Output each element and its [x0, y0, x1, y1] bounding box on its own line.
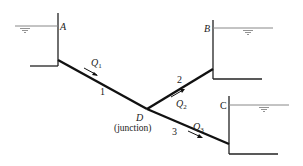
pipe-1 — [58, 60, 147, 109]
junction-caption: (junction) — [114, 123, 151, 134]
pipe-1-label: 1 — [100, 86, 105, 97]
flow-label-q2: Q2 — [176, 98, 187, 111]
reservoir-diagram: A B C — [0, 0, 303, 166]
reservoir-b-label: B — [204, 23, 210, 34]
reservoir-b: B — [204, 20, 273, 79]
pipe-2-label: 2 — [177, 74, 182, 85]
reservoir-a-label: A — [59, 21, 67, 32]
reservoir-c: C — [220, 96, 289, 154]
water-level-icon — [243, 31, 253, 35]
reservoir-a: A — [15, 13, 67, 66]
water-level-icon — [20, 29, 30, 33]
junction-label: D — [135, 112, 144, 123]
pipe-3-label: 3 — [172, 126, 177, 137]
flow-label-q1: Q1 — [91, 57, 102, 70]
pipe-3 — [147, 109, 229, 144]
reservoir-c-label: C — [220, 100, 227, 111]
water-level-icon — [259, 108, 269, 112]
